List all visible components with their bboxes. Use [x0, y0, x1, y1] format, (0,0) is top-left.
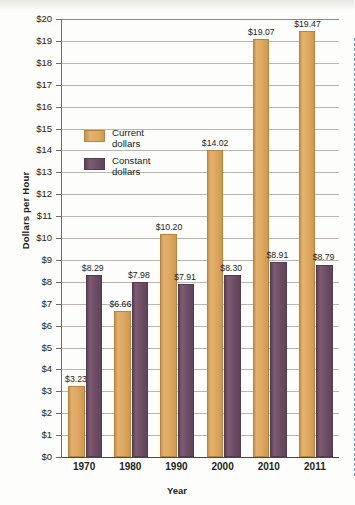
legend-swatch-constant-icon — [84, 158, 105, 170]
y-axis-tick-label: $9 — [16, 255, 52, 265]
bar-2000-constant[interactable] — [224, 275, 241, 457]
y-axis-tick — [56, 435, 62, 436]
gridline — [62, 413, 339, 414]
legend-item-current-dollars[interactable]: Current dollars — [84, 128, 180, 149]
legend-label-constant: Constant dollars — [112, 156, 150, 177]
y-axis-tick — [56, 172, 62, 173]
y-axis-tick-label: $17 — [16, 80, 52, 90]
x-axis-title: Year — [0, 485, 354, 496]
gridline — [62, 41, 339, 42]
bar-value-label: $8.30 — [220, 264, 242, 273]
y-axis-tick — [56, 348, 62, 349]
y-axis-tick-label: $10 — [16, 233, 52, 243]
y-axis-tick — [56, 41, 62, 42]
gridline — [62, 435, 339, 436]
x-axis-tick-label-2010: 2010 — [244, 461, 294, 472]
gridline — [62, 369, 339, 370]
y-axis-tick-label: $14 — [16, 145, 52, 155]
y-axis-tick — [56, 326, 62, 327]
gridline — [62, 348, 339, 349]
bar-value-label: $8.79 — [313, 253, 335, 262]
y-axis-tick-label: $12 — [16, 189, 52, 199]
y-axis-tick-label: $7 — [16, 299, 52, 309]
chart-legend: Current dollars Constant dollars — [84, 128, 180, 184]
x-axis-tick-label-1990: 1990 — [151, 461, 201, 472]
gridline — [62, 304, 339, 305]
y-axis-tick-label: $13 — [16, 167, 52, 177]
gridline — [62, 85, 339, 86]
bar-value-label: $14.02 — [202, 139, 229, 148]
y-axis-tick-label: $15 — [16, 124, 52, 134]
legend-label-current-line1: Current — [112, 127, 144, 138]
gridline — [62, 238, 339, 239]
y-axis-tick-label: $0 — [16, 452, 52, 462]
bar-value-label: $6.66 — [110, 300, 132, 309]
gridline — [62, 326, 339, 327]
legend-label-current: Current dollars — [112, 128, 144, 149]
y-axis-tick-label: $8 — [16, 277, 52, 287]
y-axis-tick — [56, 19, 62, 20]
bar-1980-current[interactable] — [114, 311, 131, 457]
y-axis-tick — [56, 260, 62, 261]
gridline — [62, 391, 339, 392]
y-axis-tick — [56, 216, 62, 217]
gridline — [62, 63, 339, 64]
y-axis-tick-label: $6 — [16, 321, 52, 331]
y-axis-tick — [56, 413, 62, 414]
y-axis-tick — [56, 282, 62, 283]
plot-area: $3.23$8.29$6.66$7.98$10.20$7.91$14.02$8.… — [61, 19, 339, 458]
gridline — [62, 260, 339, 261]
gridline — [62, 194, 339, 195]
bar-value-label: $8.91 — [267, 251, 289, 260]
bar-1970-constant[interactable] — [86, 275, 103, 457]
y-axis-tick — [56, 85, 62, 86]
y-axis-tick — [56, 238, 62, 239]
y-axis-tick-label: $19 — [16, 36, 52, 46]
x-axis-tick-label-1970: 1970 — [59, 461, 109, 472]
y-axis-tick-label: $4 — [16, 364, 52, 374]
x-axis-tick-label-2000: 2000 — [198, 461, 248, 472]
legend-item-constant-dollars[interactable]: Constant dollars — [84, 156, 180, 177]
bar-value-label: $7.91 — [174, 273, 196, 282]
y-axis-tick-label: $20 — [16, 14, 52, 24]
gridline — [62, 282, 339, 283]
y-axis-tick — [56, 150, 62, 151]
y-axis-tick — [56, 304, 62, 305]
y-axis-tick — [56, 369, 62, 370]
legend-swatch-current-icon — [84, 130, 105, 142]
y-axis-tick-label: $5 — [16, 343, 52, 353]
bar-2000-current[interactable] — [207, 150, 224, 457]
bar-value-label: $10.20 — [156, 223, 183, 232]
x-axis-tick-label-2011: 2011 — [290, 461, 340, 472]
gridline — [62, 216, 339, 217]
y-axis-tick-label: $16 — [16, 102, 52, 112]
bar-2010-constant[interactable] — [270, 262, 287, 457]
legend-label-constant-line1: Constant — [112, 155, 150, 166]
bar-2011-current[interactable] — [299, 31, 316, 457]
bar-value-label: $7.98 — [128, 271, 150, 280]
y-axis-tick — [56, 107, 62, 108]
bar-1990-current[interactable] — [160, 234, 177, 457]
y-axis-tick — [56, 129, 62, 130]
x-axis-tick-label-1980: 1980 — [105, 461, 155, 472]
y-axis-tick-label: $2 — [16, 408, 52, 418]
bar-1980-constant[interactable] — [132, 282, 149, 457]
bar-1990-constant[interactable] — [178, 284, 195, 457]
y-axis-tick-label: $11 — [16, 211, 52, 221]
y-axis-tick-label: $1 — [16, 430, 52, 440]
y-axis-tick-label: $3 — [16, 386, 52, 396]
legend-label-current-line2: dollars — [112, 138, 140, 149]
legend-label-constant-line2: dollars — [112, 166, 140, 177]
bar-value-label: $3.23 — [65, 375, 87, 384]
bar-2011-constant[interactable] — [316, 265, 333, 458]
y-axis-tick — [56, 391, 62, 392]
y-axis-tick — [56, 457, 62, 458]
y-axis-tick — [56, 63, 62, 64]
bar-1970-current[interactable] — [68, 386, 85, 457]
bar-2010-current[interactable] — [253, 39, 270, 457]
bar-value-label: $19.47 — [294, 20, 321, 29]
bar-value-label: $8.29 — [82, 264, 104, 273]
y-axis-tick-label: $18 — [16, 58, 52, 68]
gridline — [62, 107, 339, 108]
